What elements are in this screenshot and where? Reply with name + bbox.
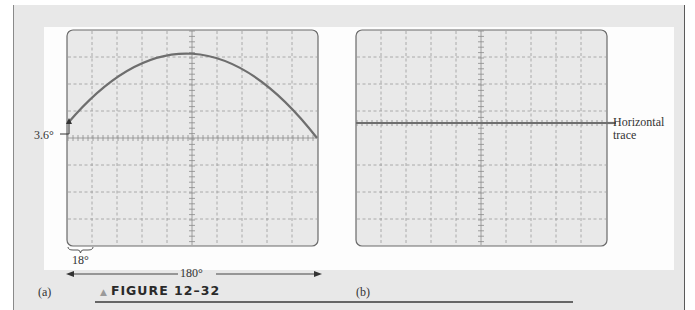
panel-a-label: (a) — [38, 285, 51, 300]
scope-screen-a — [66, 29, 320, 248]
figure-caption-text: FIGURE 12–32 — [111, 283, 220, 298]
scope-grid-a — [66, 29, 320, 248]
horizontal-trace-label-line1: Horizontal — [613, 115, 664, 129]
horizontal-trace-label-line2: trace — [613, 128, 636, 142]
triangle-up-icon: ▲ — [100, 287, 108, 297]
horizontal-trace-label: Horizontal trace — [613, 116, 664, 142]
span-label: 180° — [180, 266, 203, 281]
caption-underline — [95, 301, 573, 303]
panel-b-label: (b) — [356, 285, 370, 300]
figure-caption: ▲FIGURE 12–32 — [100, 283, 220, 298]
scope-screen-b — [355, 29, 609, 248]
division-label: 18° — [72, 253, 89, 268]
offset-arrow-icon — [58, 118, 78, 140]
offset-label: 3.6° — [34, 128, 54, 143]
scope-grid-b — [355, 29, 609, 248]
